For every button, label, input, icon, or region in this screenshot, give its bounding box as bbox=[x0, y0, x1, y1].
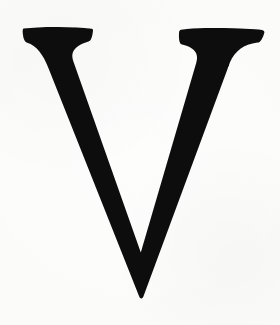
glyph-layer: Capital letter V bbox=[0, 0, 280, 325]
letter-v-outline bbox=[23, 27, 265, 299]
letter-v-glyph: Capital letter V bbox=[0, 0, 280, 325]
scanned-letter-page: Capital letter V bbox=[0, 0, 280, 325]
